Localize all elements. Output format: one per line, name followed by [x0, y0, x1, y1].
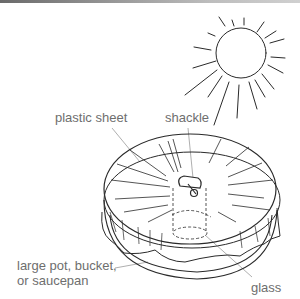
label-glass: glass: [251, 280, 281, 295]
pot-body: [102, 200, 280, 279]
label-shackle: shackle: [165, 110, 209, 125]
shackle-icon: [179, 176, 201, 197]
label-large-pot-line1: large pot, bucket,: [17, 258, 117, 273]
label-large-pot-line2: or saucepan: [17, 273, 117, 288]
sun-icon: [185, 17, 285, 125]
label-plastic-sheet: plastic sheet: [55, 110, 127, 125]
solar-still-diagram: [0, 0, 300, 299]
label-large-pot: large pot, bucket, or saucepan: [17, 258, 117, 288]
